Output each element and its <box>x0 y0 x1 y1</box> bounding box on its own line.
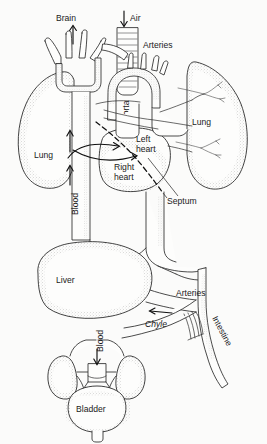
right-heart-label-line2: heart <box>114 172 134 182</box>
air-label: Air <box>130 13 141 23</box>
kidney-left <box>48 356 77 399</box>
right-heart-label-line1: Right <box>114 162 135 172</box>
air-arrow <box>121 11 127 27</box>
right-lung: Lung <box>176 62 247 189</box>
kidney-right <box>116 356 145 399</box>
blood-lower-label: Blood <box>95 330 105 352</box>
diagram-canvas: Lung Lung <box>0 0 267 444</box>
chyle-label: Chyle <box>145 319 167 329</box>
brain-label: Brain <box>56 13 76 23</box>
lung-right-label: Lung <box>192 117 211 127</box>
trachea <box>117 28 138 95</box>
septum-label: Septum <box>167 196 197 206</box>
bladder: Bladder <box>66 386 130 442</box>
blood-upper-label: Blood <box>70 193 80 215</box>
left-heart-label-line1: Left <box>136 134 151 144</box>
lung-left-label: Lung <box>34 150 53 160</box>
left-heart-label-line2: heart <box>136 144 156 154</box>
anatomy-diagram-svg: Lung Lung <box>0 0 267 444</box>
arteries-top-label: Arteries <box>143 40 173 50</box>
intestine-label: Intestine <box>210 314 234 348</box>
arteries-lower-label: Arteries <box>176 288 206 298</box>
liver-label: Liver <box>56 275 75 285</box>
bladder-label: Bladder <box>76 404 106 414</box>
